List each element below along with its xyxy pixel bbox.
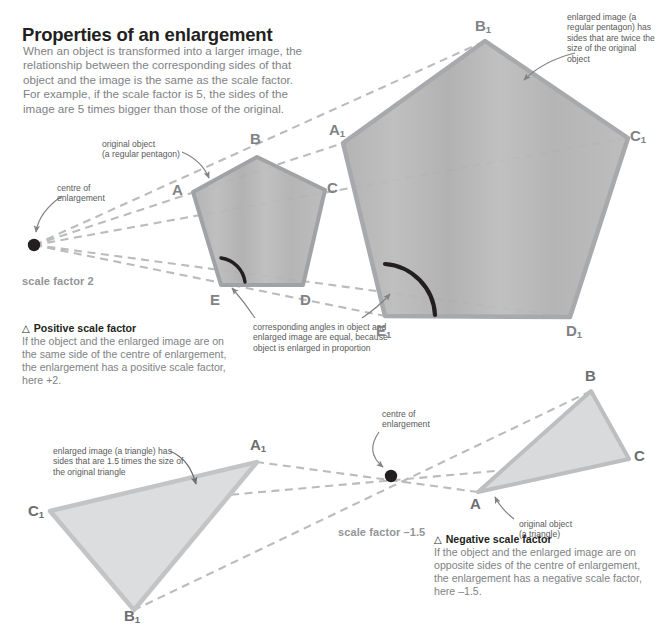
vertex-label-B1: B1	[475, 18, 491, 33]
centre-label-lower-line2: enlargement	[382, 419, 452, 429]
callout-centre-of-enlargement-lower: centre of enlargement	[382, 409, 452, 430]
centre-label-upper-line1: centre of	[57, 183, 137, 193]
centre-of-enlargement-dot-lower	[385, 470, 397, 482]
vertex-label-C: C	[327, 180, 338, 195]
vertex-label-tri-B1: B1	[124, 608, 140, 623]
callout-original-pentagon-line1: original object	[102, 139, 222, 149]
vertex-label-A1: A1	[329, 122, 345, 137]
vertex-label-D1: D1	[566, 323, 582, 338]
callout-enlarged-triangle: enlarged image (a triangle) has sides th…	[53, 446, 188, 477]
lower-original-object-arrow	[495, 497, 514, 519]
note-positive-scale-factor: △Positive scale factor If the object and…	[22, 322, 227, 387]
vertex-label-tri-C: C	[634, 448, 645, 463]
intro-paragraph: When an object is transformed into a lar…	[23, 44, 311, 116]
triangle-bullet-icon-2: △	[434, 534, 442, 545]
centre-label-upper-line2: enlargement	[57, 193, 137, 203]
callout-centre-of-enlargement-upper: centre of enlargement	[57, 183, 137, 204]
vertex-label-tri-A1: A1	[250, 437, 266, 452]
scale-factor-label-lower: scale factor –1.5	[338, 526, 425, 538]
image-pentagon	[343, 41, 628, 317]
note-negative-scale-factor: △Negative scale factor If the object and…	[434, 533, 652, 598]
scale-factor-label-upper: scale factor 2	[22, 275, 94, 287]
note-positive-body: If the object and the enlarged image are…	[22, 335, 227, 387]
vertex-label-B: B	[250, 131, 261, 146]
lower-centre-label-arrow	[373, 432, 383, 467]
centre-label-lower-line1: centre of	[382, 409, 452, 419]
vertex-label-E: E	[210, 292, 220, 307]
callout-original-triangle-line1: original object	[519, 519, 629, 529]
diagram-page: Properties of an enlargement When an obj…	[0, 0, 657, 627]
vertex-label-D: D	[300, 292, 311, 307]
vertex-label-C1: C1	[630, 128, 646, 143]
vertex-label-tri-A: A	[470, 496, 481, 511]
note-positive-heading: △Positive scale factor	[22, 322, 227, 334]
object-pentagon	[193, 157, 325, 285]
vertex-label-A: A	[172, 182, 183, 197]
note-negative-heading: △Negative scale factor	[434, 533, 652, 545]
callout-enlarged-pentagon: enlarged image (a regular pentagon) has …	[567, 12, 655, 64]
vertex-label-tri-C1: C1	[28, 503, 44, 518]
callout-original-pentagon-line2: (a regular pentagon)	[102, 149, 222, 159]
page-title: Properties of an enlargement	[22, 24, 272, 46]
centre-of-enlargement-dot-upper	[28, 239, 40, 251]
image-triangle	[50, 462, 257, 610]
note-negative-body: If the object and the enlarged image are…	[434, 546, 652, 598]
note-positive-heading-text: Positive scale factor	[34, 322, 136, 334]
angles-callout-arrow-object	[232, 288, 255, 318]
callout-original-pentagon: original object (a regular pentagon)	[102, 139, 222, 160]
vertex-label-tri-B: B	[585, 368, 596, 383]
triangle-bullet-icon: △	[22, 323, 30, 334]
note-negative-heading-text: Negative scale factor	[446, 533, 552, 545]
vertex-label-E1: E1	[376, 323, 391, 338]
ray-A-to-A1	[257, 462, 478, 492]
object-triangle	[478, 391, 629, 492]
